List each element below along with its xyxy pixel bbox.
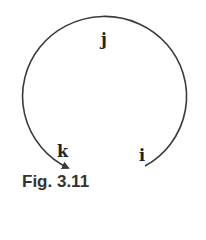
label-i: i: [139, 146, 145, 165]
figure-caption: Fig. 3.11: [22, 172, 89, 192]
label-j: j: [101, 30, 107, 49]
label-k: k: [57, 142, 68, 161]
